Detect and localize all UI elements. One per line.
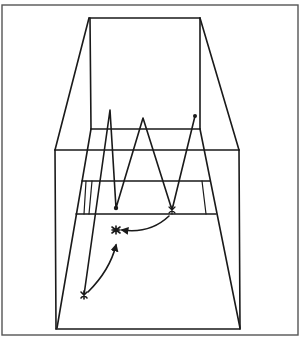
dot-marker-end bbox=[193, 114, 197, 118]
dot-marker-1 bbox=[114, 206, 118, 210]
diagram-description: Perspective line drawing of a court/box … bbox=[0, 0, 35, 1]
outer-frame bbox=[2, 5, 298, 335]
back-wall bbox=[89, 18, 200, 129]
arrow-curve-1 bbox=[122, 216, 169, 231]
court-diagram bbox=[0, 0, 301, 339]
star-marker-3 bbox=[81, 291, 87, 299]
star-marker-1 bbox=[169, 206, 175, 214]
arrow-curve-2 bbox=[88, 245, 116, 292]
star-marker-2 bbox=[112, 226, 120, 234]
zigzag-path bbox=[84, 110, 195, 295]
